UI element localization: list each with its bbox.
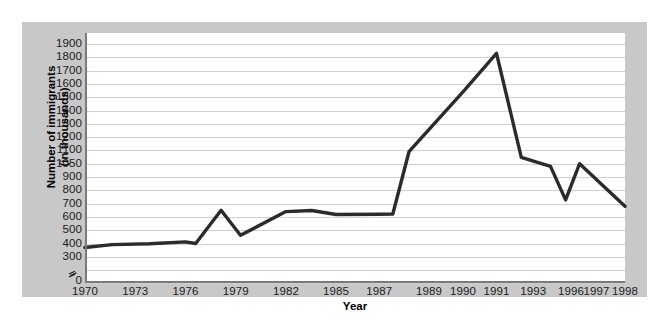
x-axis-tick-label: 1987 (366, 285, 392, 297)
y-axis-title-line2: (in thousands) (58, 47, 71, 207)
x-axis-tick-label: 1970 (72, 285, 98, 297)
x-axis-title: Year (85, 300, 625, 312)
x-axis-tick-label: 1989 (416, 285, 442, 297)
x-axis-tick-label: 1973 (122, 285, 148, 297)
chart-figure: 1900180017001600150014001300120011001050… (22, 22, 647, 297)
y-axis-tick-label: 500 (30, 224, 82, 235)
x-axis-tick-label: 1997 (583, 285, 609, 297)
x-axis-tick-labels: 1970197319761979198219851987198919901991… (85, 285, 625, 301)
x-axis-line (85, 281, 625, 283)
x-axis-tick-label: 1982 (273, 285, 299, 297)
x-axis-tick-label: 1993 (520, 285, 546, 297)
y-axis-title-line1: Number of immigrants (45, 47, 58, 207)
axis-break-icon (68, 268, 82, 282)
x-axis-tick-label: 1991 (484, 285, 510, 297)
x-axis-tick-label: 1976 (172, 285, 198, 297)
x-axis-tick-label: 1998 (612, 285, 638, 297)
immigration-line-series (85, 33, 625, 283)
y-axis-title: Number of immigrants (in thousands) (45, 47, 71, 207)
y-axis-tick-label: 600 (30, 211, 82, 222)
y-axis-line (85, 33, 87, 283)
plot-area (85, 33, 625, 283)
x-axis-tick-label: 1990 (450, 285, 476, 297)
x-axis-tick-label: 1985 (323, 285, 349, 297)
x-axis-tick-label: 1979 (223, 285, 249, 297)
data-polyline (85, 53, 625, 247)
x-axis-tick-label: 1996 (558, 285, 584, 297)
y-axis-tick-label: 400 (30, 238, 82, 249)
y-axis-tick-label: 300 (30, 251, 82, 262)
